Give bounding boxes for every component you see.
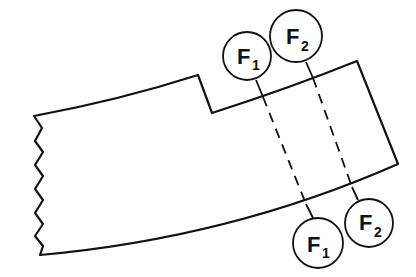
marker-f1-top: F 1 — [223, 32, 271, 80]
svg-text:F: F — [359, 210, 372, 235]
leader-f2-top — [306, 62, 313, 78]
leader-f2-bottom — [352, 187, 358, 200]
diagram-canvas: F 1 F 2 F 1 F 2 — [0, 0, 416, 277]
marker-f2-top: F 2 — [270, 10, 322, 62]
svg-text:1: 1 — [252, 57, 260, 73]
marker-f2-bottom: F 2 — [345, 199, 393, 247]
leader-f1-bottom — [306, 204, 313, 218]
leader-f1-top — [256, 80, 263, 97]
svg-text:F: F — [237, 44, 250, 69]
section-line-f2 — [313, 78, 352, 187]
marker-f1-bottom: F 1 — [293, 218, 343, 268]
plank-outline — [34, 61, 398, 255]
svg-text:2: 2 — [374, 224, 382, 240]
section-line-f1 — [263, 97, 306, 204]
svg-text:1: 1 — [322, 245, 330, 261]
svg-text:F: F — [286, 24, 299, 49]
svg-text:F: F — [307, 232, 320, 257]
svg-text:2: 2 — [301, 38, 309, 54]
